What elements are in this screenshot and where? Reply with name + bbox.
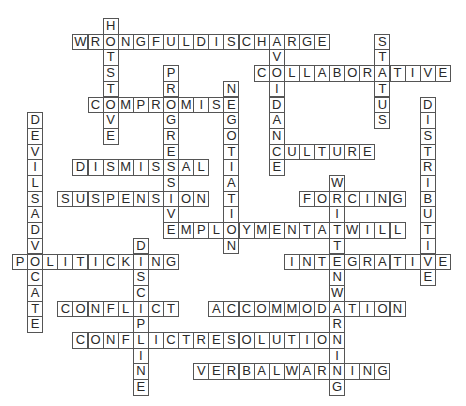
- crossword-cell: A: [314, 222, 330, 239]
- crossword-cell: A: [178, 159, 194, 176]
- crossword-cell: C: [133, 285, 149, 302]
- crossword-cell: I: [57, 254, 73, 271]
- crossword-cell: N: [284, 222, 300, 239]
- crossword-cell: A: [374, 65, 390, 82]
- crossword-cell: A: [27, 206, 43, 223]
- crossword-cell: A: [269, 34, 285, 51]
- crossword-cell: O: [88, 332, 104, 349]
- crossword-cell: C: [72, 332, 88, 349]
- crossword-cell: G: [344, 254, 360, 271]
- crossword-cell: U: [163, 34, 179, 51]
- crossword-cell: S: [148, 159, 164, 176]
- crossword-cell: P: [12, 254, 28, 271]
- crossword-cell: W: [284, 363, 300, 380]
- crossword-cell: P: [163, 65, 179, 82]
- crossword-cell: A: [254, 363, 270, 380]
- crossword-cell: N: [329, 332, 345, 349]
- crossword-cell: O: [27, 254, 43, 271]
- crossword-cell: S: [374, 34, 390, 51]
- crossword-cell: N: [223, 238, 239, 255]
- crossword-cell: O: [163, 97, 179, 114]
- crossword-cell: L: [299, 144, 315, 161]
- crossword-cell: R: [284, 34, 300, 51]
- crossword-cell: O: [314, 191, 330, 208]
- crossword-cell: S: [374, 112, 390, 129]
- crossword-cell: D: [133, 238, 149, 255]
- crossword-cell: E: [359, 144, 375, 161]
- crossword-cell: P: [133, 97, 149, 114]
- crossword-cell: U: [269, 332, 285, 349]
- crossword-cell: A: [208, 301, 224, 318]
- crossword-cell: P: [133, 316, 149, 333]
- crossword-cell: I: [299, 332, 315, 349]
- crossword-cell: I: [133, 301, 149, 318]
- crossword-cell: S: [148, 191, 164, 208]
- crossword-cell: M: [269, 301, 285, 318]
- crossword-cell: S: [57, 191, 73, 208]
- crossword-cell: F: [118, 332, 134, 349]
- crossword-cell: E: [163, 222, 179, 239]
- crossword-cell: T: [329, 238, 345, 255]
- crossword-cell: T: [314, 254, 330, 271]
- crossword-cell: D: [193, 34, 209, 51]
- crossword-cell: O: [374, 301, 390, 318]
- crossword-cell: S: [223, 332, 239, 349]
- crossword-cell: I: [420, 238, 436, 255]
- crossword-cell: N: [299, 254, 315, 271]
- crossword-cell: U: [374, 97, 390, 114]
- crossword-cell: C: [103, 254, 119, 271]
- crossword-cell: W: [344, 222, 360, 239]
- crossword-cell: R: [314, 363, 330, 380]
- crossword-cell: I: [359, 301, 375, 318]
- crossword-cell: I: [88, 159, 104, 176]
- crossword-cell: I: [133, 348, 149, 365]
- crossword-cell: F: [103, 301, 119, 318]
- crossword-cell: I: [359, 222, 375, 239]
- crossword-cell: I: [329, 348, 345, 365]
- crossword-cell: G: [163, 112, 179, 129]
- crossword-cell: U: [284, 144, 300, 161]
- crossword-cell: A: [299, 363, 315, 380]
- crossword-cell: A: [223, 175, 239, 192]
- crossword-cell: R: [329, 191, 345, 208]
- crossword-cell: A: [314, 65, 330, 82]
- crossword-cell: V: [27, 238, 43, 255]
- crossword-cell: T: [374, 49, 390, 66]
- crossword-cell: E: [329, 254, 345, 271]
- crossword-cell: F: [299, 191, 315, 208]
- crossword-cell: E: [223, 97, 239, 114]
- crossword-cell: R: [163, 128, 179, 145]
- crossword-cell: A: [27, 285, 43, 302]
- crossword-cell: L: [390, 222, 406, 239]
- crossword-cell: O: [254, 301, 270, 318]
- crossword-cell: N: [133, 363, 149, 380]
- crossword-cell: A: [269, 112, 285, 129]
- crossword-cell: N: [88, 301, 104, 318]
- crossword-cell: E: [133, 379, 149, 396]
- crossword-cell: E: [103, 128, 119, 145]
- crossword-cell: D: [420, 97, 436, 114]
- crossword-cell: L: [374, 222, 390, 239]
- crossword-cell: I: [27, 159, 43, 176]
- crossword-cell: E: [27, 128, 43, 145]
- crossword-cell: D: [314, 301, 330, 318]
- crossword-cell: O: [103, 97, 119, 114]
- crossword-cell: E: [435, 65, 451, 82]
- crossword-cell: C: [148, 301, 164, 318]
- crossword-cell: T: [103, 81, 119, 98]
- crossword-cell: I: [405, 65, 421, 82]
- crossword-cell: E: [269, 222, 285, 239]
- crossword-cell: G: [374, 363, 390, 380]
- crossword-cell: C: [239, 301, 255, 318]
- crossword-cell: N: [223, 81, 239, 98]
- crossword-cell: T: [72, 254, 88, 271]
- crossword-cell: T: [420, 222, 436, 239]
- crossword-cell: I: [148, 332, 164, 349]
- crossword-cell: L: [193, 159, 209, 176]
- crossword-cell: I: [420, 112, 436, 129]
- crossword-cell: I: [359, 191, 375, 208]
- crossword-cell: O: [72, 301, 88, 318]
- crossword-cell: N: [390, 301, 406, 318]
- crossword-cell: E: [27, 316, 43, 333]
- crossword-cell: N: [133, 191, 149, 208]
